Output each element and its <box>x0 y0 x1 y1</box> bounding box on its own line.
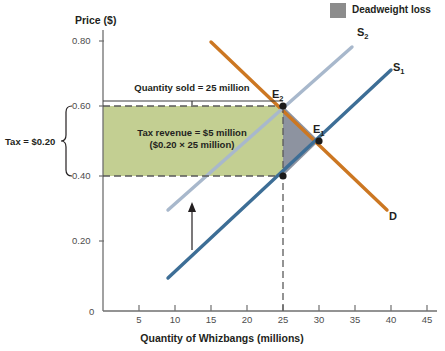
x-tick-label-35: 35 <box>350 314 361 325</box>
x-tick-label-30: 30 <box>314 314 325 325</box>
e1-subscript: 1 <box>320 129 324 138</box>
supply-shift-arrow-head <box>188 202 196 212</box>
quantity-sold-label: Quantity sold = 25 million <box>134 82 249 93</box>
demand-curve-label: D <box>389 210 397 222</box>
tax-revenue-label: Tax revenue = $5 million ($0.20 × 25 mil… <box>137 127 246 151</box>
x-tick-label-40: 40 <box>386 314 397 325</box>
x-tick-label-10: 10 <box>170 314 181 325</box>
s1-subscript: 1 <box>400 67 404 76</box>
e2-subscript: 2 <box>279 94 283 103</box>
point-e1 <box>315 137 322 144</box>
y-tick-label-0: 0 <box>89 306 94 317</box>
point-e1-label: E1 <box>313 123 325 138</box>
supply-curve-s2-label: S2 <box>357 26 369 41</box>
tax-brace <box>61 106 72 176</box>
x-tick-label-45: 45 <box>422 314 433 325</box>
y-tick-label-060: 0.60 <box>72 100 91 111</box>
tax-revenue-line1: Tax revenue = $5 million <box>137 127 246 139</box>
supply-curve-s1-label: S1 <box>393 61 405 76</box>
point-producer-price <box>279 172 286 179</box>
y-axis-title: Price ($) <box>75 14 116 26</box>
x-tick-label-20: 20 <box>242 314 253 325</box>
point-e2 <box>279 102 286 109</box>
s2-subscript: 2 <box>364 32 368 41</box>
y-tick-label-020: 0.20 <box>72 235 91 246</box>
tax-revenue-line2: ($0.20 × 25 million) <box>137 139 246 151</box>
x-axis-title: Quantity of Whizbangs (millions) <box>140 332 303 344</box>
y-tick-label-040: 0.40 <box>72 170 91 181</box>
y-tick-label-080: 0.80 <box>72 35 91 46</box>
x-tick-label-15: 15 <box>206 314 217 325</box>
x-tick-label-25: 25 <box>278 314 289 325</box>
x-tick-label-5: 5 <box>136 314 141 325</box>
tax-bracket-label: Tax = $0.20 <box>5 136 55 147</box>
tax-incidence-chart <box>0 0 445 351</box>
point-e2-label: E2 <box>272 88 284 103</box>
